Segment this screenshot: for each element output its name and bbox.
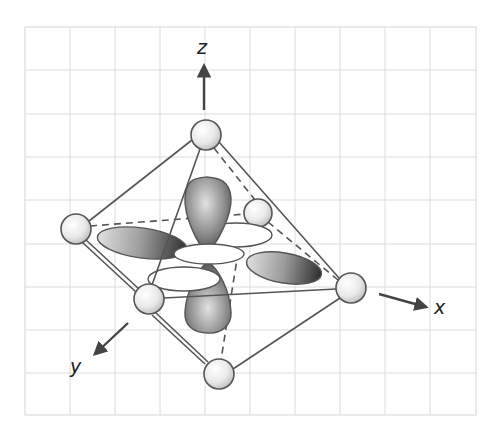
ligand-front <box>134 284 164 314</box>
ligand-top <box>191 120 221 150</box>
y-axis-label: y <box>69 355 82 377</box>
x-axis-label: x <box>433 296 446 318</box>
ligand-right <box>336 273 366 303</box>
ligand-bottom <box>204 359 234 389</box>
octahedral-orbital-diagram: z x y <box>0 0 496 439</box>
ligand-left <box>61 214 91 244</box>
ligand-back <box>244 199 272 227</box>
z-axis-label: z <box>196 36 208 58</box>
torus-ring-center <box>174 244 244 264</box>
